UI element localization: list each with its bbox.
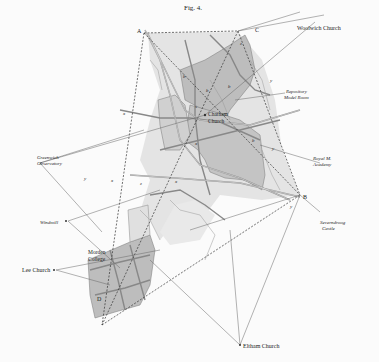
station-b: B	[303, 194, 307, 200]
label-castle-2: Castle	[322, 226, 336, 231]
triangulation-map: Fig. 4.	[0, 0, 379, 362]
figure-title: Fig. 4.	[184, 4, 202, 12]
label-castle-1: Severndroog	[320, 220, 346, 225]
station-d: D	[97, 296, 102, 302]
station-c: C	[255, 27, 259, 33]
svg-text:x: x	[110, 178, 114, 183]
label-repository-2: Model Room	[283, 95, 309, 100]
svg-text:s: s	[195, 104, 197, 109]
label-morden-2: College	[88, 256, 106, 262]
town-lower	[88, 235, 155, 318]
label-morden-1: Morden	[88, 249, 106, 255]
label-greenwich-1: Greenwich	[37, 155, 59, 160]
station-a: A	[137, 28, 142, 34]
label-lee-church: Lee Church	[22, 267, 50, 273]
label-chatham-church: Chatham	[208, 111, 229, 117]
svg-text:y: y	[289, 204, 293, 209]
label-windmill: Windmill	[40, 220, 59, 225]
label-eltham-church: Eltham Church	[243, 343, 280, 349]
label-repository-1: Repository	[285, 89, 308, 94]
label-woolwich-church: Woolwich Church	[297, 25, 341, 31]
label-rma-2: Academy	[312, 162, 332, 167]
svg-text:y: y	[269, 78, 273, 83]
label-chatham-church-2: Church	[208, 118, 224, 124]
label-rma-1: Royal M.	[312, 156, 331, 161]
svg-text:z: z	[139, 181, 142, 186]
label-greenwich-2: Observatory	[37, 161, 63, 166]
svg-text:y: y	[83, 176, 87, 181]
svg-text:z: z	[239, 41, 242, 46]
